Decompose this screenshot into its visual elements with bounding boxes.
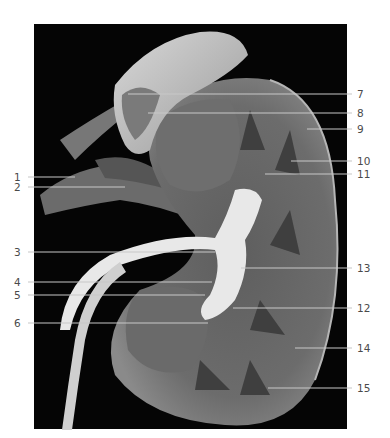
- label-4: 4: [14, 276, 21, 288]
- kidney-figure: 123456789101113121415: [0, 0, 390, 438]
- leader-lines: [0, 0, 390, 438]
- label-7: 7: [357, 88, 364, 100]
- label-10: 10: [357, 155, 370, 167]
- label-15: 15: [357, 382, 370, 394]
- label-11: 11: [357, 168, 370, 180]
- label-3: 3: [14, 246, 21, 258]
- label-5: 5: [14, 289, 21, 301]
- label-8: 8: [357, 107, 364, 119]
- label-9: 9: [357, 123, 364, 135]
- label-6: 6: [14, 317, 21, 329]
- label-2: 2: [14, 181, 21, 193]
- label-13: 13: [357, 262, 370, 274]
- label-14: 14: [357, 342, 370, 354]
- label-12: 12: [357, 302, 370, 314]
